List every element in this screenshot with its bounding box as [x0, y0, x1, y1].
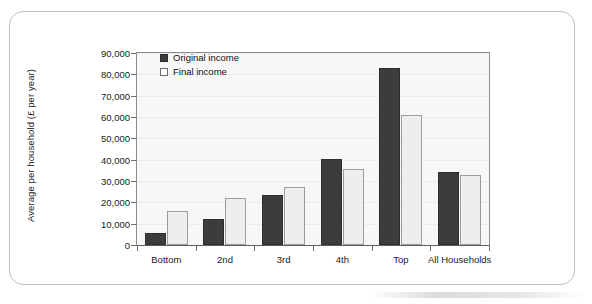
legend: Original incomeFinal income: [160, 51, 239, 79]
y-tick-label: 70,000: [50, 90, 130, 101]
bar-original-income[interactable]: [145, 233, 166, 245]
x-tick-mark: [254, 246, 255, 251]
y-tick-mark: [131, 117, 136, 118]
x-axis-label: All Households: [405, 254, 515, 266]
y-tick-mark: [131, 96, 136, 97]
y-tick-mark: [131, 181, 136, 182]
y-tick-label: 60,000: [50, 112, 130, 123]
x-tick-mark: [430, 246, 431, 251]
y-tick-label: 90,000: [50, 48, 130, 59]
bar-original-income[interactable]: [438, 172, 459, 245]
bar-original-income[interactable]: [321, 159, 342, 245]
x-tick-mark: [196, 246, 197, 251]
bar-final-income[interactable]: [401, 115, 422, 245]
legend-label: Final income: [173, 66, 227, 77]
legend-label: Original income: [173, 52, 239, 63]
legend-swatch-original-icon: [160, 54, 168, 62]
bar-group: [137, 53, 196, 245]
y-tick-mark: [131, 138, 136, 139]
y-tick-mark: [131, 202, 136, 203]
y-tick-mark: [131, 160, 136, 161]
bar-group: [430, 53, 489, 245]
y-tick-label: 40,000: [50, 154, 130, 165]
bar-group: [196, 53, 255, 245]
bars-layer: [137, 53, 489, 245]
y-axis-title: Average per household (£ per year): [25, 46, 36, 246]
y-tick-mark: [131, 74, 136, 75]
y-tick-mark: [131, 224, 136, 225]
bar-chart: Average per household (£ per year) 010,0…: [0, 0, 592, 304]
y-tick-mark: [131, 245, 136, 246]
bar-group: [254, 53, 313, 245]
scan-artifact: [370, 292, 585, 298]
bar-final-income[interactable]: [225, 198, 246, 245]
legend-entry[interactable]: Final income: [160, 65, 239, 78]
bar-final-income[interactable]: [343, 169, 364, 245]
x-tick-mark: [489, 246, 490, 251]
y-tick-mark: [131, 53, 136, 54]
bar-final-income[interactable]: [460, 175, 481, 245]
bar-group: [372, 53, 431, 245]
legend-entry[interactable]: Original income: [160, 51, 239, 64]
bar-final-income[interactable]: [284, 187, 305, 245]
y-tick-label: 20,000: [50, 197, 130, 208]
y-tick-label: 80,000: [50, 69, 130, 80]
y-tick-label: 50,000: [50, 133, 130, 144]
x-tick-mark: [372, 246, 373, 251]
y-tick-label: 0: [50, 240, 130, 251]
bar-original-income[interactable]: [203, 219, 224, 245]
bar-original-income[interactable]: [262, 195, 283, 245]
bar-final-income[interactable]: [167, 211, 188, 245]
y-tick-label: 30,000: [50, 176, 130, 187]
x-tick-mark: [137, 246, 138, 251]
bar-original-income[interactable]: [379, 68, 400, 245]
x-tick-mark: [313, 246, 314, 251]
bar-group: [313, 53, 372, 245]
y-tick-label: 10,000: [50, 218, 130, 229]
legend-swatch-final-icon: [160, 68, 168, 76]
